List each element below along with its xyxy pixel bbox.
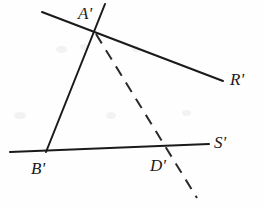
label-b-prime: B'	[31, 159, 45, 178]
segment-a-prime-b-prime-line	[46, 4, 105, 152]
label-d-prime: D'	[149, 156, 166, 175]
dashed-cevian-line	[96, 34, 197, 198]
ray-r-prime-line	[42, 12, 223, 81]
ray-s-prime-line	[10, 144, 209, 152]
diagram-canvas: A' B' D' R' S'	[0, 0, 264, 209]
label-a-prime: A'	[77, 4, 92, 23]
geometry-diagram: A' B' D' R' S'	[0, 0, 264, 209]
label-s-prime: S'	[214, 133, 227, 152]
label-r-prime: R'	[229, 70, 244, 89]
